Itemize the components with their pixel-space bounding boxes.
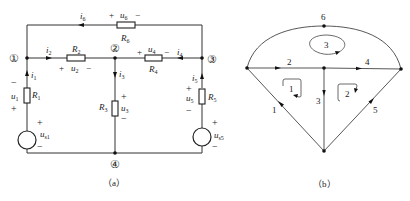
circuit-figure: ① ② ③ ④ i6 + u6 − R6 i2 R2 + u2 − + u4 −… (0, 0, 410, 201)
edge-4-arrow-icon (356, 67, 362, 70)
svg-text:−: − (212, 141, 218, 152)
branch-5-labels: i5 + u5 R5 − + us5 − (186, 73, 224, 152)
voltage-source-us5 (193, 128, 211, 146)
svg-text:i3: i3 (119, 69, 125, 80)
svg-text:R3: R3 (98, 102, 108, 113)
loop-2: 2 (338, 84, 358, 101)
svg-text:R5: R5 (207, 92, 217, 103)
edge-label-6: 6 (321, 12, 326, 22)
loop-3-arrow-icon (335, 51, 340, 55)
svg-text:i2: i2 (46, 45, 52, 56)
svg-text:i5: i5 (192, 73, 198, 84)
edge-label-5: 5 (373, 105, 378, 115)
node-dot-4 (113, 151, 117, 155)
arrow-i6-icon (78, 23, 84, 27)
svg-text:R4: R4 (148, 64, 158, 75)
loop-1-arrow-icon (293, 94, 298, 98)
svg-text:us5: us5 (214, 130, 224, 141)
arrow-i5-icon (200, 73, 204, 79)
resistor-r2 (67, 55, 85, 61)
caption-a: （a） (103, 178, 125, 188)
caption-b: （b） (313, 179, 336, 189)
edge-label-3: 3 (316, 96, 321, 106)
svg-text:+: + (37, 117, 43, 128)
svg-text:+: + (59, 63, 64, 73)
node-label-2: ② (110, 42, 120, 54)
svg-text:1: 1 (289, 84, 294, 94)
node-dot-3 (200, 56, 204, 60)
arrow-i2-icon (46, 56, 52, 60)
voltage-source-us1 (18, 131, 36, 149)
edge-1 (247, 68, 324, 151)
edge-5 (324, 69, 401, 151)
svg-text:u6: u6 (120, 10, 128, 21)
edge-3-arrow-icon (322, 90, 325, 96)
svg-text:−: − (121, 113, 127, 124)
node-label-3: ③ (207, 53, 217, 65)
svg-text:R2: R2 (71, 44, 81, 55)
edge-label-2: 2 (287, 57, 292, 67)
loop-3: 3 (310, 35, 345, 55)
svg-text:−: − (86, 63, 91, 73)
svg-text:+: + (137, 47, 142, 57)
svg-text:+: + (109, 10, 114, 20)
resistor-r3 (112, 101, 118, 116)
svg-text:3: 3 (324, 40, 329, 50)
edge-4 (324, 68, 401, 69)
loop-1: 1 (283, 79, 301, 98)
svg-text:+: + (121, 91, 127, 102)
svg-text:u1: u1 (11, 91, 19, 102)
arrow-i3-icon (113, 72, 117, 78)
svg-text:i1: i1 (31, 70, 37, 81)
svg-text:u2: u2 (71, 63, 79, 74)
svg-text:R1: R1 (31, 90, 41, 101)
resistor-r5 (199, 89, 205, 104)
edge-2-arrow-icon (275, 66, 281, 69)
resistor-r4 (145, 55, 162, 61)
node-label-1: ① (9, 52, 19, 64)
edge-1-arrow-icon (278, 101, 284, 107)
svg-text:−: − (186, 105, 192, 116)
loop-2-arrow-icon (354, 88, 358, 93)
node-dot-2 (113, 56, 117, 60)
svg-text:−: − (11, 77, 17, 88)
resistor-r1 (24, 88, 30, 103)
node-label-4: ④ (110, 158, 120, 170)
edge-label-4: 4 (365, 57, 370, 67)
graph-node-right (399, 67, 403, 71)
svg-text:+: + (11, 103, 17, 114)
svg-text:2: 2 (345, 89, 350, 99)
arrow-i1-icon (25, 70, 29, 76)
svg-text:i6: i6 (80, 11, 86, 22)
graph-node-left (245, 66, 249, 70)
node-dot-1 (25, 56, 29, 60)
svg-text:−: − (164, 47, 169, 57)
svg-text:us1: us1 (40, 129, 50, 140)
svg-text:−: − (37, 141, 43, 152)
circuit-diagram-a: ① ② ③ ④ i6 + u6 − R6 i2 R2 + u2 − + u4 −… (9, 10, 224, 188)
branch-1-labels: i1 − u1 R1 + + us1 − (11, 70, 50, 152)
graph-node-bottom (322, 149, 326, 153)
graph-node-center (322, 66, 326, 70)
svg-text:u4: u4 (148, 44, 156, 55)
svg-text:R6: R6 (120, 33, 130, 44)
graph-node-top (322, 24, 326, 28)
resistor-r6 (117, 22, 135, 28)
svg-text:−: − (135, 10, 140, 20)
svg-text:+: + (212, 117, 218, 128)
graph-diagram-b: 1 2 3 4 5 6 3 1 2 （b） (245, 12, 403, 189)
svg-text:u5: u5 (186, 93, 194, 104)
svg-text:i4: i4 (177, 47, 183, 58)
edge-label-1: 1 (272, 105, 277, 115)
